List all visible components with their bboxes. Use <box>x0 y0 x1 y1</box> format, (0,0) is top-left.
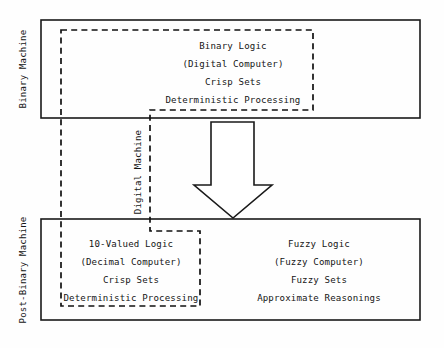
label-post-binary-machine: Post-Binary Machine <box>18 217 28 324</box>
binary-text-line-2: (Digital Computer) <box>182 59 283 69</box>
binary-text-line-1: Binary Logic <box>199 41 267 51</box>
post-binary-machine-box <box>41 219 420 320</box>
decimal-text-line-2: (Decimal Computer) <box>80 257 181 267</box>
fuzzy-text-line-4: Approximate Reasonings <box>257 293 381 303</box>
decimal-text-line-1: 10-Valued Logic <box>89 239 173 249</box>
fuzzy-text-line-1: Fuzzy Logic <box>288 239 350 249</box>
fuzzy-text-line-3: Fuzzy Sets <box>291 275 347 285</box>
fuzzy-text-line-2: (Fuzzy Computer) <box>274 257 364 267</box>
decimal-text-line-4: Deterministic Processing <box>64 293 199 303</box>
decimal-text-line-3: Crisp Sets <box>103 275 159 285</box>
diagram-root: Binary Machine Post-Binary Machine Digit… <box>0 0 444 348</box>
label-binary-machine: Binary Machine <box>18 30 28 109</box>
down-arrow-icon <box>194 122 272 218</box>
label-digital-machine: Digital Machine <box>133 130 143 214</box>
binary-text-line-3: Crisp Sets <box>205 77 261 87</box>
binary-text-line-4: Deterministic Processing <box>166 95 301 105</box>
diagram-canvas: Binary Machine Post-Binary Machine Digit… <box>0 0 444 348</box>
